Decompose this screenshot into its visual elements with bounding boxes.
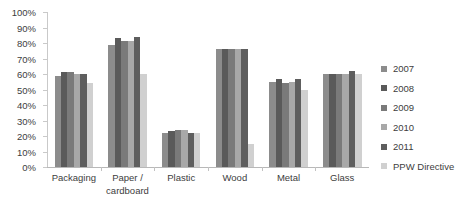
bar-group [101,12,155,167]
legend-item-label: 2011 [393,141,413,152]
legend-item-label: 2008 [393,83,414,94]
bar [194,133,200,167]
y-axis-tick-label: 10% [0,146,36,157]
legend-item[interactable]: 2010 [381,118,454,138]
y-axis-tick-label: 50% [0,84,36,95]
legend-item[interactable]: 2007 [381,59,454,79]
legend-swatch-icon [381,105,387,111]
bar [248,144,254,167]
category-label-line: Paper / [101,172,155,185]
legend-item[interactable]: 2011 [381,137,454,157]
legend-item-label: 2010 [393,122,414,133]
legend-item-label: PPW Directive [393,161,454,172]
category-label-line: Packaging [47,172,101,185]
y-axis-tick-label: 40% [0,100,36,111]
category-label-line: Glass [315,172,369,185]
x-axis-tick [315,167,316,171]
legend-swatch-icon [381,144,387,150]
legend-item-label: 2009 [393,102,414,113]
x-axis-tick [208,167,209,171]
x-axis-category-label: Packaging [47,172,101,197]
bar-group-bars [162,12,201,167]
bar-group [262,12,316,167]
legend-swatch-icon [381,66,387,72]
category-label-line: Metal [262,172,316,185]
chart-legend: 20072008200920102011PPW Directive [381,59,454,176]
x-axis-tick [101,167,102,171]
x-axis-category-labels: PackagingPaper /cardboardPlasticWoodMeta… [47,172,369,197]
legend-item[interactable]: PPW Directive [381,157,454,177]
y-axis-tick [43,167,47,168]
x-axis-category-label: Plastic [154,172,208,197]
x-axis-tick [262,167,263,171]
bar-group-bars [108,12,147,167]
legend-swatch-icon [381,163,387,169]
bar-group [47,12,101,167]
bar [355,74,361,167]
legend-swatch-icon [381,85,387,91]
x-axis-category-label: Wood [208,172,262,197]
legend-item[interactable]: 2008 [381,79,454,99]
bar [301,90,307,168]
bar-group [208,12,262,167]
x-axis-category-label: Glass [315,172,369,197]
bar-group-bars [216,12,255,167]
category-label-line: Wood [208,172,262,185]
x-axis-category-label: Metal [262,172,316,197]
bar-group-bars [55,12,94,167]
y-axis-tick-label: 80% [0,38,36,49]
y-axis-tick-label: 0% [0,162,36,173]
x-axis-tick [154,167,155,171]
category-label-line: cardboard [101,185,155,198]
bar-group [154,12,208,167]
bar-chart: 100%90%80%70%60%50%40%30%20%10%0% Packag… [0,0,474,216]
y-axis-tick-label: 30% [0,115,36,126]
y-axis-tick-label: 100% [0,7,36,18]
bar-group [315,12,369,167]
legend-item-label: 2007 [393,63,414,74]
legend-item[interactable]: 2009 [381,98,454,118]
y-axis-tick-label: 90% [0,22,36,33]
y-axis-tick-label: 20% [0,131,36,142]
bar-group-bars [323,12,362,167]
bar [87,83,93,167]
bar-group-bars [269,12,308,167]
bar-groups [47,12,369,167]
category-label-line: Plastic [154,172,208,185]
y-axis-tick-label: 60% [0,69,36,80]
bar [140,74,146,167]
y-axis-tick-label: 70% [0,53,36,64]
legend-swatch-icon [381,124,387,130]
plot-area [47,12,369,167]
x-axis-category-label: Paper /cardboard [101,172,155,197]
